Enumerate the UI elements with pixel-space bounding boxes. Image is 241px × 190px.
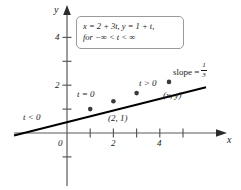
equation-callout-box: x = 2 + 3t, y = 1 + t, for −∞ < t < ∞ (76, 16, 184, 49)
slope-denominator: 3 (201, 72, 207, 79)
y-axis-arrowhead (63, 5, 71, 15)
origin-label: 0 (58, 139, 63, 148)
annotation-point-2-1: (2, 1) (108, 114, 128, 123)
x-tick-label-4: 4 (157, 139, 162, 148)
equation-line-1: x = 2 + 3t, y = 1 + t, (83, 21, 178, 32)
data-point (134, 91, 139, 96)
y-tick-label-4: 4 (55, 33, 60, 42)
slope-label-text: slope = (173, 67, 199, 77)
slope-numerator: 1 (201, 62, 207, 69)
x-tick-label-2: 2 (111, 139, 116, 148)
slope-label: slope = 1 3 (173, 63, 207, 80)
annotation-t-zero: t = 0 (77, 90, 95, 99)
annotation-t-negative: t < 0 (23, 113, 41, 122)
data-point (111, 99, 116, 104)
slope-fraction: 1 3 (201, 62, 207, 79)
y-axis-label: y (54, 5, 58, 15)
equation-line-2: for −∞ < t < ∞ (83, 32, 178, 43)
data-point (167, 80, 172, 85)
data-point (88, 107, 93, 112)
x-axis-arrowhead (216, 129, 227, 137)
x-axis-label: x (227, 135, 231, 145)
parametric-line-figure: y x 0 2 4 2 4 x = 2 + 3t, y = 1 + t, for… (0, 0, 241, 190)
annotation-point-xy: (x, y) (163, 91, 181, 100)
annotation-t-positive: t > 0 (139, 79, 157, 88)
y-tick-label-2: 2 (55, 81, 60, 90)
